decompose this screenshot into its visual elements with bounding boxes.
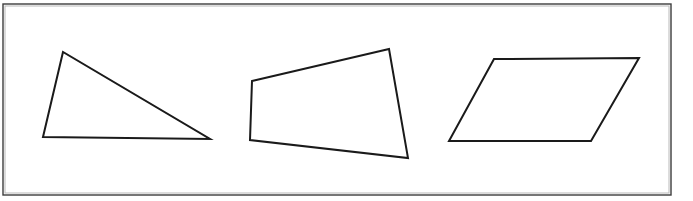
figure-container <box>0 0 693 201</box>
shapes-figure <box>0 0 693 201</box>
